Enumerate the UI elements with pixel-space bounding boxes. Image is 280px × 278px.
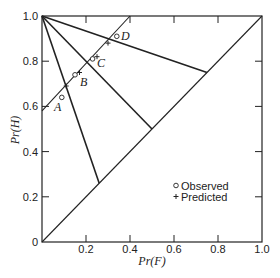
point-label-b: B — [80, 75, 88, 89]
x-tick-label-0.4: 0.4 — [122, 243, 137, 255]
observed-point-d — [115, 34, 120, 39]
observed-point-c — [90, 57, 95, 62]
point-label-a: A — [53, 100, 62, 114]
y-tick-label-0.8: 0.8 — [23, 55, 38, 67]
point-label-d: D — [120, 29, 130, 43]
y-axis-label: Pr(H) — [8, 116, 22, 146]
legend-predicted-icon — [174, 194, 179, 199]
legend: Observed Predicted — [174, 180, 229, 203]
point-label-c: C — [97, 56, 106, 70]
ray-line-1 — [42, 16, 99, 183]
y-tick-label-1.0: 1.0 — [23, 10, 38, 22]
x-tick-label-0.6: 0.6 — [166, 243, 181, 255]
observed-point-b — [73, 73, 78, 78]
x-tick-label-1.0: 1.0 — [254, 243, 269, 255]
y-tick-label-0.2: 0.2 — [23, 191, 38, 203]
legend-observed-icon — [174, 183, 179, 188]
y-tick-label-0.4: 0.4 — [23, 146, 38, 158]
y-tick-label-0.6: 0.6 — [23, 100, 38, 112]
legend-predicted-label: Predicted — [181, 191, 227, 203]
ray-line-3 — [42, 16, 207, 73]
x-tick-label-0.2: 0.2 — [78, 243, 93, 255]
x-tick-label-0.8: 0.8 — [210, 243, 225, 255]
x-axis-label: Pr(F) — [137, 254, 165, 268]
observed-point-a — [60, 95, 65, 100]
roc-chart: 0 0.2 0.4 0.6 0.8 1.0 0.2 0.4 0.6 0.8 1.… — [0, 0, 280, 278]
y-tick-label-0: 0 — [32, 236, 38, 248]
predicted-point-a — [64, 84, 69, 89]
